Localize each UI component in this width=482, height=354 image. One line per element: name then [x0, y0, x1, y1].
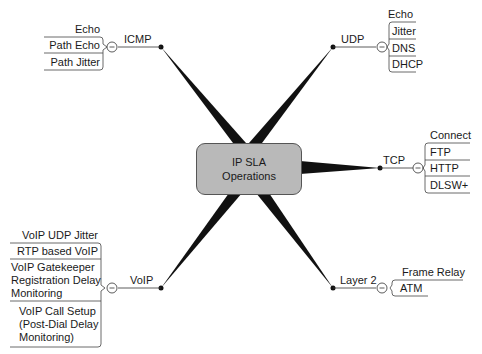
- voip-item-call-setup[interactable]: VoIP Call Setup (Post-Dial Delay Monitor…: [19, 305, 101, 344]
- voip-cs-line2: (Post-Dial Delay: [19, 318, 101, 331]
- voip-item-rtp[interactable]: RTP based VoIP: [10, 245, 98, 258]
- collapse-icon-icmp[interactable]: [106, 41, 118, 53]
- voip-gk-line2: Registration Delay: [11, 274, 101, 287]
- icmp-item-echo[interactable]: Echo: [44, 23, 100, 36]
- central-node-line1: IP SLA: [232, 155, 266, 169]
- collapse-icon-udp[interactable]: [376, 41, 388, 53]
- central-node[interactable]: IP SLA Operations: [196, 143, 302, 195]
- spoke-icmp: [161, 47, 246, 143]
- spoke-voip: [161, 193, 242, 288]
- collapse-icon-voip[interactable]: [106, 282, 118, 294]
- voip-gk-line3: Monitoring: [11, 287, 101, 300]
- tcp-item-ftp[interactable]: FTP: [430, 146, 451, 159]
- tcp-item-http[interactable]: HTTP: [430, 162, 459, 175]
- layer2-item-frame-relay[interactable]: Frame Relay: [402, 266, 465, 279]
- udp-item-jitter[interactable]: Jitter: [392, 25, 416, 38]
- udp-item-dns[interactable]: DNS: [392, 42, 415, 55]
- voip-cs-line1: VoIP Call Setup: [19, 305, 101, 318]
- tcp-item-dlsw[interactable]: DLSW+: [430, 179, 468, 192]
- icmp-item-path-echo[interactable]: Path Echo: [44, 39, 100, 52]
- collapse-icon-layer2[interactable]: [376, 282, 388, 294]
- udp-item-echo[interactable]: Echo: [388, 8, 413, 21]
- udp-item-dhcp[interactable]: DHCP: [392, 58, 423, 71]
- layer2-item-atm[interactable]: ATM: [400, 282, 422, 295]
- branch-label-voip[interactable]: VoIP: [130, 274, 153, 287]
- collapse-icon-tcp[interactable]: [412, 162, 424, 174]
- spoke-udp: [249, 47, 333, 143]
- voip-cs-line3: Monitoring): [19, 331, 101, 344]
- branch-label-udp[interactable]: UDP: [341, 33, 364, 46]
- branch-label-icmp[interactable]: ICMP: [124, 33, 152, 46]
- icmp-item-path-jitter[interactable]: Path Jitter: [44, 56, 100, 69]
- voip-item-gatekeeper[interactable]: VoIP Gatekeeper Registration Delay Monit…: [11, 261, 101, 300]
- tcp-item-connect[interactable]: Connect: [430, 129, 471, 142]
- spoke-tcp: [300, 161, 380, 174]
- branch-label-layer2[interactable]: Layer 2: [340, 274, 377, 287]
- branch-label-tcp[interactable]: TCP: [383, 154, 405, 167]
- spoke-layer2: [256, 193, 333, 288]
- central-node-line2: Operations: [222, 169, 276, 183]
- voip-gk-line1: VoIP Gatekeeper: [11, 261, 101, 274]
- voip-item-udp-jitter[interactable]: VoIP UDP Jitter: [10, 229, 98, 242]
